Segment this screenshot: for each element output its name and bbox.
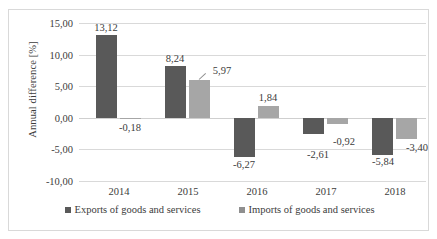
bar-group-2015: 8,24 5,97	[154, 23, 223, 181]
ytick-label-minus5: -5,00	[51, 144, 73, 155]
ytick-label-minus10: -10,00	[46, 176, 73, 187]
plot-area: 15,00 10,00 5,00 0,00 -5,00 -10,00 13,12…	[79, 23, 426, 181]
xtick-label-2018: 2018	[385, 186, 406, 197]
y-axis-title: Annual difference [%]	[27, 15, 38, 165]
gridline-minus10	[79, 181, 426, 182]
bar-group-2018: -5,84 -3,40	[361, 23, 430, 181]
xtick-label-2016: 2016	[247, 186, 268, 197]
bar-exports-2015[interactable]	[165, 66, 186, 118]
legend-label-imports: Imports of goods and services	[249, 204, 375, 215]
bar-group-2017: -2,61 -0,92	[292, 23, 361, 181]
value-label-imports-2016: 1,84	[259, 92, 277, 103]
bar-imports-2015[interactable]	[189, 80, 210, 118]
bar-exports-2017[interactable]	[303, 118, 324, 135]
bar-exports-2014[interactable]	[96, 35, 117, 118]
legend-label-exports: Exports of goods and services	[75, 204, 201, 215]
xtick-label-2017: 2017	[316, 186, 337, 197]
ytick-label-15: 15,00	[49, 18, 73, 29]
bar-imports-2014[interactable]	[120, 118, 141, 119]
bar-group-2016: -6,27 1,84	[223, 23, 292, 181]
chart-figure: Annual difference [%] 15,00 10,00 5,00 0…	[8, 9, 429, 231]
ytick-label-0: 0,00	[55, 112, 73, 123]
xtick-label-2014: 2014	[109, 186, 130, 197]
ytick-label-5: 5,00	[55, 81, 73, 92]
value-label-imports-2018: -3,40	[406, 142, 428, 153]
bar-imports-2018[interactable]	[396, 118, 417, 140]
value-label-imports-2014: -0,18	[119, 122, 141, 133]
value-label-exports-2014: 13,12	[94, 22, 118, 33]
chart-legend: Exports of goods and services Imports of…	[9, 204, 430, 215]
value-label-exports-2017: -2,61	[307, 149, 329, 160]
legend-item-exports[interactable]: Exports of goods and services	[65, 204, 201, 215]
bar-exports-2018[interactable]	[372, 118, 393, 155]
legend-item-imports[interactable]: Imports of goods and services	[239, 204, 375, 215]
legend-swatch-imports-icon	[239, 207, 245, 213]
bar-group-2014: 13,12 -0,18	[85, 23, 154, 181]
ytick-label-10: 10,00	[49, 49, 73, 60]
bar-imports-2016[interactable]	[258, 106, 279, 118]
bar-imports-2017[interactable]	[327, 118, 348, 124]
value-label-exports-2016: -6,27	[233, 159, 255, 170]
xtick-label-2015: 2015	[178, 186, 199, 197]
value-label-exports-2015: 8,24	[166, 53, 184, 64]
value-label-exports-2018: -5,84	[372, 156, 394, 167]
value-leader-imports-2015	[199, 73, 206, 80]
legend-swatch-exports-icon	[65, 207, 71, 213]
value-label-imports-2017: -0,92	[333, 136, 355, 147]
bar-exports-2016[interactable]	[234, 118, 255, 158]
